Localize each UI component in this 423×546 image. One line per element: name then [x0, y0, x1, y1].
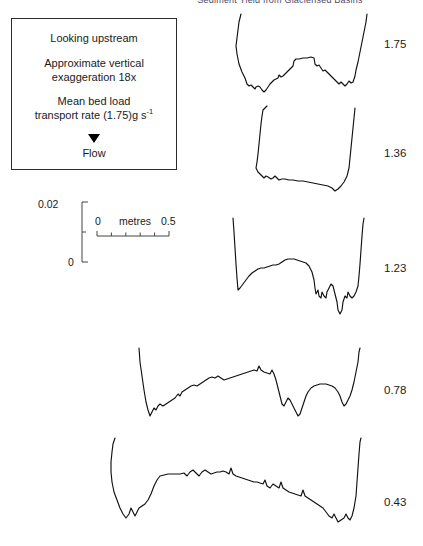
profile-line-5 [100, 438, 375, 530]
profile-label-5: 0.43 [384, 496, 406, 508]
profile-label-3: 1.23 [384, 262, 406, 274]
profile-label-2: 1.36 [384, 147, 406, 159]
legend-transport-line1: Mean bed load [12, 94, 176, 108]
legend-flow-label: Flow [12, 146, 176, 160]
cross-section-profile-5 [100, 438, 375, 530]
cross-section-profile-1 [225, 14, 375, 106]
legend-box: Looking upstream Approximate vertical ex… [11, 18, 177, 170]
cross-section-profile-2 [243, 106, 373, 194]
cross-section-profile-4 [130, 348, 375, 430]
horizontal-scale-end-label: 0.5 [161, 215, 176, 227]
horizontal-scale-bar [96, 230, 176, 240]
profile-label-1: 1.75 [384, 38, 406, 50]
flow-triangle-icon [88, 134, 100, 143]
legend-transport-exponent: -1 [147, 107, 154, 116]
profile-line-2 [243, 106, 373, 194]
legend-transport-text: transport rate (1.75)g s [35, 109, 147, 121]
scale-bars: 0.02 0 0 metres 0.5 [38, 198, 188, 278]
horizontal-scale-units-label: metres [119, 215, 151, 227]
profile-line-3 [228, 218, 376, 324]
profile-label-4: 0.78 [384, 384, 406, 396]
horizontal-scale-start-label: 0 [95, 215, 101, 227]
vertical-scale-top-label: 0.02 [38, 198, 58, 210]
legend-exaggeration-line2: exaggeration 18x [12, 70, 176, 84]
legend-transport-line2: transport rate (1.75)g s-1 [12, 108, 176, 122]
figure-canvas: Sediment Yield from Glacierised Basins L… [0, 0, 423, 546]
vertical-scale-bracket [81, 201, 95, 263]
legend-exaggeration-line1: Approximate vertical [12, 56, 176, 70]
profile-line-4 [130, 348, 375, 430]
vertical-scale-bottom-label: 0 [68, 256, 74, 268]
profile-line-1 [225, 14, 375, 106]
figure-title: Sediment Yield from Glacierised Basins [150, 0, 410, 5]
cross-section-profile-3 [228, 218, 376, 324]
legend-looking-upstream: Looking upstream [12, 31, 176, 45]
